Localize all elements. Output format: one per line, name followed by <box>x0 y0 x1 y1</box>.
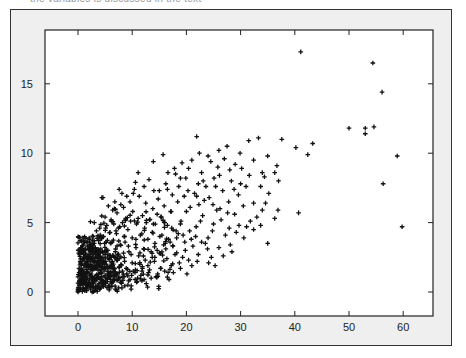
y-tick-label: 5 <box>27 217 33 229</box>
x-tick-label: 50 <box>343 321 355 333</box>
x-tick-label: 10 <box>126 321 138 333</box>
y-tick-label: 15 <box>21 78 33 90</box>
x-tick-label: 20 <box>180 321 192 333</box>
x-tick-label: 30 <box>234 321 246 333</box>
y-tick-label: 10 <box>21 147 33 159</box>
x-tick-label: 40 <box>289 321 301 333</box>
y-tick-label: 0 <box>27 286 33 298</box>
x-tick-label: 60 <box>397 321 409 333</box>
scatter-chart: 0102030405060 051015 <box>0 0 466 358</box>
x-tick-label: 0 <box>75 321 81 333</box>
